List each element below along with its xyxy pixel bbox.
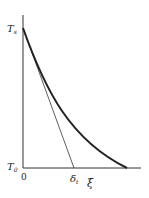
temperature-curve: [23, 28, 127, 168]
t0-label: T0: [7, 162, 18, 173]
ts-label: Ts: [7, 24, 17, 35]
temperature-profile-diagram: [0, 0, 149, 198]
t0-label-main: T: [7, 161, 14, 172]
delta-t-label: δt: [70, 174, 78, 185]
t0-label-sub: 0: [14, 166, 18, 173]
xi-axis-label: ξ: [87, 178, 93, 189]
delta-t-label-sub: t: [76, 178, 78, 185]
ts-label-main: T: [7, 23, 14, 34]
origin-label: 0: [21, 173, 27, 182]
ts-label-sub: s: [14, 28, 17, 35]
